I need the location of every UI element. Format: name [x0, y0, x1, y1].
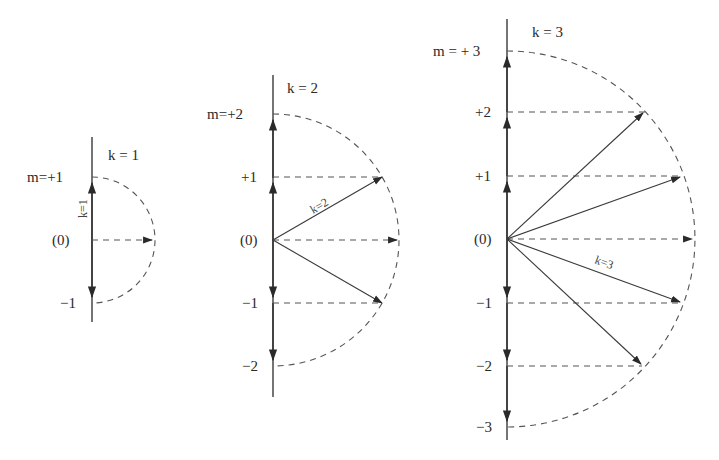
vector-m-1 — [507, 239, 680, 302]
semicircle — [92, 177, 155, 303]
k-label: k = 1 — [108, 147, 139, 163]
m-label: −1 — [242, 295, 258, 311]
vector-label: k=1 — [76, 199, 90, 218]
m-label: m = + 3 — [433, 43, 480, 59]
diagram-k2: k = 2 m=+2 +1 (0) −1 −2 k=2 — [207, 75, 399, 397]
vector-label: k=3 — [593, 253, 615, 273]
m-label: +2 — [475, 104, 491, 120]
m-label: −2 — [242, 358, 258, 374]
vector-m1 — [507, 177, 680, 239]
vector-m-2 — [507, 239, 641, 364]
m-label: m=+2 — [207, 106, 243, 122]
vector-label: k=2 — [308, 195, 331, 217]
m-label: −2 — [476, 358, 492, 374]
vector-m-1 — [273, 240, 382, 303]
semicircle — [273, 114, 399, 366]
m-label: +1 — [475, 168, 491, 184]
m-label: −1 — [476, 295, 492, 311]
m-label: (0) — [240, 232, 258, 249]
m-label: −3 — [476, 419, 492, 435]
k-label: k = 3 — [532, 24, 563, 40]
angular-momentum-diagram: k = 1 m=+1 (0) −1 k=1 k = 2 m=+2 +1 (0) … — [0, 0, 719, 460]
m-label: −1 — [60, 295, 76, 311]
diagram-k3: k = 3 m = + 3 +2 +1 (0) −1 −2 −3 k=3 — [433, 19, 695, 440]
m-label: +1 — [241, 169, 257, 185]
m-label: (0) — [474, 231, 492, 248]
m-label: (0) — [52, 232, 70, 249]
m-label: m=+1 — [27, 169, 63, 185]
diagram-k1: k = 1 m=+1 (0) −1 k=1 — [27, 137, 155, 322]
k-label: k = 2 — [287, 80, 318, 96]
